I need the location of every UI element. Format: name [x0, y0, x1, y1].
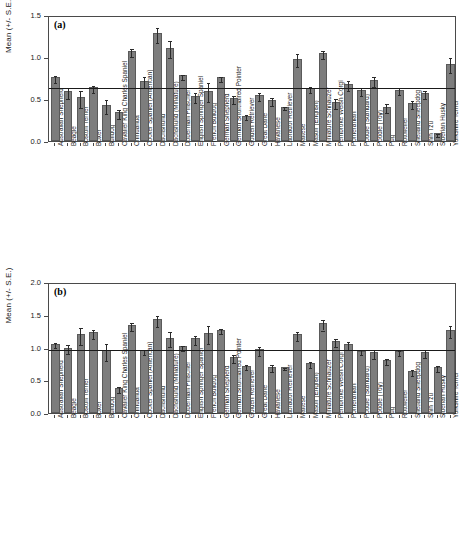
- bar-group[interactable]: [166, 17, 174, 141]
- bar-group[interactable]: [64, 284, 72, 413]
- bar-group[interactable]: [255, 284, 263, 413]
- bar-group[interactable]: [332, 17, 340, 141]
- bar[interactable]: [89, 332, 97, 413]
- bar[interactable]: [319, 53, 327, 141]
- bar-group[interactable]: [446, 284, 454, 413]
- bar-group[interactable]: [166, 284, 174, 413]
- bar[interactable]: [446, 64, 454, 141]
- bar-group[interactable]: [446, 17, 454, 141]
- bar[interactable]: [128, 51, 136, 141]
- bar-group[interactable]: [383, 17, 391, 141]
- bar-group[interactable]: [128, 17, 136, 141]
- bar[interactable]: [306, 363, 314, 413]
- bar[interactable]: [179, 75, 187, 141]
- bar[interactable]: [217, 77, 225, 141]
- bar-group[interactable]: [293, 284, 301, 413]
- bar-group[interactable]: [102, 17, 110, 141]
- bar[interactable]: [140, 350, 148, 413]
- bar[interactable]: [332, 341, 340, 413]
- bar-group[interactable]: [332, 284, 340, 413]
- bar[interactable]: [383, 360, 391, 413]
- bar-group[interactable]: [268, 17, 276, 141]
- bar[interactable]: [293, 334, 301, 413]
- bar-group[interactable]: [140, 284, 148, 413]
- bar[interactable]: [434, 367, 442, 413]
- bar-group[interactable]: [306, 284, 314, 413]
- bar-group[interactable]: [357, 284, 365, 413]
- bar-group[interactable]: [179, 17, 187, 141]
- bar-group[interactable]: [395, 17, 403, 141]
- bar-group[interactable]: [77, 284, 85, 413]
- bar[interactable]: [319, 323, 327, 413]
- bar-group[interactable]: [434, 284, 442, 413]
- bar-group[interactable]: [153, 17, 161, 141]
- bar-group[interactable]: [230, 284, 238, 413]
- bar[interactable]: [281, 107, 289, 141]
- bar[interactable]: [395, 351, 403, 413]
- bar[interactable]: [306, 88, 314, 141]
- bar[interactable]: [408, 371, 416, 413]
- bar-group[interactable]: [51, 17, 59, 141]
- bar-group[interactable]: [395, 284, 403, 413]
- bar-group[interactable]: [434, 17, 442, 141]
- bar-group[interactable]: [128, 284, 136, 413]
- bar[interactable]: [446, 330, 454, 413]
- bar[interactable]: [344, 84, 352, 141]
- bar-group[interactable]: [102, 284, 110, 413]
- bar-group[interactable]: [383, 284, 391, 413]
- bar-group[interactable]: [319, 17, 327, 141]
- bar[interactable]: [395, 90, 403, 141]
- bar-group[interactable]: [51, 284, 59, 413]
- bar-group[interactable]: [191, 17, 199, 141]
- bar-group[interactable]: [64, 17, 72, 141]
- bar[interactable]: [370, 352, 378, 413]
- bar-group[interactable]: [89, 17, 97, 141]
- bar[interactable]: [153, 33, 161, 141]
- bar-group[interactable]: [370, 17, 378, 141]
- bar-group[interactable]: [370, 284, 378, 413]
- bar[interactable]: [357, 90, 365, 141]
- bar[interactable]: [242, 366, 250, 413]
- bar[interactable]: [128, 325, 136, 413]
- bar-group[interactable]: [421, 284, 429, 413]
- bar[interactable]: [51, 77, 59, 141]
- bar-group[interactable]: [268, 284, 276, 413]
- bar[interactable]: [344, 344, 352, 413]
- bar-group[interactable]: [293, 17, 301, 141]
- bar-group[interactable]: [77, 17, 85, 141]
- bar[interactable]: [230, 357, 238, 413]
- bar-group[interactable]: [204, 17, 212, 141]
- bar-group[interactable]: [408, 284, 416, 413]
- bar-group[interactable]: [217, 284, 225, 413]
- bar[interactable]: [89, 87, 97, 141]
- bar[interactable]: [268, 367, 276, 414]
- bar-group[interactable]: [179, 284, 187, 413]
- bar-group[interactable]: [306, 17, 314, 141]
- bar[interactable]: [64, 348, 72, 414]
- bar-group[interactable]: [344, 284, 352, 413]
- bar-group[interactable]: [242, 17, 250, 141]
- bar[interactable]: [421, 352, 429, 413]
- bar-group[interactable]: [281, 17, 289, 141]
- bar-group[interactable]: [115, 284, 123, 413]
- bar[interactable]: [255, 349, 263, 413]
- bar-group[interactable]: [115, 17, 123, 141]
- bar[interactable]: [281, 367, 289, 413]
- bar-group[interactable]: [344, 17, 352, 141]
- bar[interactable]: [179, 346, 187, 413]
- bar-group[interactable]: [408, 17, 416, 141]
- bar-group[interactable]: [191, 284, 199, 413]
- bar[interactable]: [293, 59, 301, 141]
- bar-group[interactable]: [421, 17, 429, 141]
- bar-group[interactable]: [319, 284, 327, 413]
- bar[interactable]: [51, 344, 59, 413]
- bar[interactable]: [217, 330, 225, 413]
- bar[interactable]: [357, 351, 365, 413]
- bar-group[interactable]: [357, 17, 365, 141]
- bar-group[interactable]: [230, 17, 238, 141]
- bar-group[interactable]: [89, 284, 97, 413]
- bar-group[interactable]: [255, 17, 263, 141]
- bar-group[interactable]: [217, 17, 225, 141]
- bar-group[interactable]: [153, 284, 161, 413]
- bar-group[interactable]: [281, 284, 289, 413]
